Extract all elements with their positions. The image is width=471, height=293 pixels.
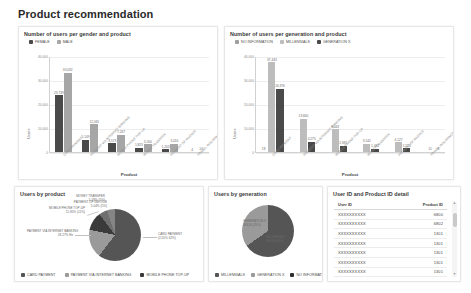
bar-value-label: 3,200: [144, 140, 152, 144]
bar-group[interactable]: 3,5737,267MOBILE PHONE TOP-UP: [103, 56, 130, 152]
gender-chart-ylabel: Users: [26, 129, 31, 139]
legend-item-generation-pie-2[interactable]: NO INFORMATION: [290, 273, 323, 277]
table-row[interactable]: XXXXXXXXXX6800: [334, 210, 447, 220]
bar-group[interactable]: 1837,44326,376CARD PAYMENT: [256, 56, 288, 152]
scrollbar-thumb[interactable]: [453, 213, 457, 227]
cell-product-id: 6802: [397, 219, 447, 229]
cell-product-id: 1301: [397, 267, 447, 277]
legend-label: NO INFORMATION: [296, 273, 323, 277]
detail-table[interactable]: User ID Product ID XXXXXXXXXX6800XXXXXXX…: [334, 200, 447, 277]
bar-value-label: 7,267: [117, 130, 125, 134]
legend-swatch-icon: [215, 273, 219, 277]
bar-value-label: 23,739: [54, 91, 64, 95]
scroll-down-icon[interactable]: ▼: [452, 272, 457, 277]
legend-label: PAYMENT VIA INTERNET BANKING: [71, 273, 132, 277]
card-users-by-product: Users by product CARD PAYMENT (2.05% 62%…: [14, 186, 204, 282]
product-pie-legend: CARD PAYMENTPAYMENT VIA INTERNET BANKING…: [15, 270, 189, 277]
bar-value-label: 3,542: [363, 139, 371, 143]
table-row[interactable]: XXXXXXXXXX1301: [334, 248, 447, 258]
bar-group[interactable]: 1,2033,410PAYMENT OF INVOICE: [157, 56, 184, 152]
table-row[interactable]: XXXXXXXXXX1301: [334, 257, 447, 267]
bar[interactable]: 33,032: [64, 73, 72, 152]
scroll-up-icon[interactable]: ▲: [452, 201, 457, 206]
cell-product-id: 6800: [397, 210, 447, 220]
table-row[interactable]: XXXXXXXXXX6802: [334, 219, 447, 229]
table-row[interactable]: XXXXXXXXXX1301: [334, 229, 447, 239]
bar-group[interactable]: 23,73933,032CARD PAYMENT: [50, 56, 77, 152]
gender-chart-xlabel: Product: [49, 172, 209, 177]
legend-item-generation-pie-1[interactable]: GENERATION X: [251, 273, 285, 277]
bar-group[interactable]: 13,8404,275PAYMENT VIA INTERNET BANKING: [288, 56, 320, 152]
legend-label: MILLENNIALS: [221, 273, 245, 277]
generation-chart-xlabel: Product: [255, 172, 445, 177]
y-axis-tick-label: 30,000: [244, 79, 254, 83]
cell-product-id: 1301: [397, 248, 447, 258]
bar-value-label: 33,032: [63, 68, 73, 72]
bar-value-label: 1,203: [162, 145, 170, 149]
bar-group[interactable]: 9,4432,681MOBILE PHONE TOP-UP: [319, 56, 351, 152]
bar-group[interactable]: 414TRAVEL INSURANCE: [183, 56, 210, 152]
legend-swatch-icon: [251, 273, 255, 277]
bar[interactable]: 37,443: [268, 62, 275, 152]
cell-user-id: XXXXXXXXXX: [334, 238, 397, 248]
bar[interactable]: 5,149: [82, 140, 90, 152]
y-axis-tick-label: 0: [252, 151, 254, 155]
bar-value-label: 26,376: [275, 84, 285, 88]
column-header-product-id[interactable]: Product ID: [397, 200, 447, 210]
bar-value-label: 3,410: [170, 139, 178, 143]
legend-swatch-icon: [290, 273, 294, 277]
pie-leader-line: [143, 237, 157, 238]
legend-item-generation-pie-0[interactable]: MILLENNIALS: [215, 273, 245, 277]
table-row[interactable]: XXXXXXXXXX1301: [334, 238, 447, 248]
bar[interactable]: 13,840: [300, 119, 307, 152]
cell-user-id: XXXXXXXXXX: [334, 267, 397, 277]
detail-table-title: User ID and Product ID detail: [328, 187, 460, 197]
legend-swatch-icon: [65, 273, 69, 277]
generation-pie-title: Users by generation: [209, 187, 322, 197]
bar-value-label: 1,823: [135, 143, 143, 147]
cell-user-id: XXXXXXXXXX: [334, 219, 397, 229]
bar-value-label: 4,127: [394, 138, 402, 142]
table-row[interactable]: XXXXXXXXXX1301: [334, 267, 447, 277]
bar-group[interactable]: 5,14911,565PAYMENT VIA INTERNET BANKING: [77, 56, 104, 152]
table-header-row: User ID Product ID: [334, 200, 447, 210]
y-axis-tick-label: 10,000: [38, 127, 48, 131]
generation-chart-plot-area: Users 010,00020,00030,00040,0001837,4432…: [225, 27, 453, 179]
bar-value-label: 9,443: [331, 125, 339, 129]
bar[interactable]: 9,443: [332, 129, 339, 152]
generation-pie-chart[interactable]: [242, 205, 294, 257]
bar-value-label: 37,443: [267, 58, 277, 62]
bar[interactable]: 1,203: [162, 149, 170, 152]
bar-group[interactable]: 3,5421,462MONEY TRANSFER: [351, 56, 383, 152]
gender-chart-plot-area: Users 010,00020,00030,00040,00023,73933,…: [19, 27, 217, 179]
table-scrollbar[interactable]: ▲ ▼: [452, 201, 457, 277]
cell-user-id: XXXXXXXXXX: [334, 229, 397, 239]
card-user-product-detail: User ID and Product ID detail User ID Pr…: [327, 186, 461, 282]
legend-label: MOBILE PHONE TOP-UP: [146, 273, 189, 277]
legend-label: CARD PAYMENT: [27, 273, 56, 277]
legend-item-product-1[interactable]: PAYMENT VIA INTERNET BANKING: [65, 273, 132, 277]
card-users-by-generation: Users by generation GENERATION X 36316 (…: [208, 186, 323, 282]
bar-value-label: 13,840: [299, 114, 309, 118]
bar-group[interactable]: 1,8233,200MONEY TRANSFER: [130, 56, 157, 152]
bar-value-label: 11,565: [90, 120, 100, 124]
bar[interactable]: 23,739: [55, 95, 63, 152]
legend-label: GENERATION X: [257, 273, 285, 277]
product-pie-chart[interactable]: [89, 209, 141, 261]
bar-group[interactable]: 118TRAVEL INSURANCE: [414, 56, 446, 152]
card-generation-product-chart: Number of users per generation and produ…: [224, 26, 454, 180]
legend-item-product-2[interactable]: MOBILE PHONE TOP-UP: [140, 273, 189, 277]
page-title: Product recommendation: [18, 8, 153, 20]
dashboard-page: Product recommendation Number of users p…: [0, 0, 471, 293]
legend-item-product-0[interactable]: CARD PAYMENT: [21, 273, 56, 277]
y-axis-tick-label: 20,000: [244, 103, 254, 107]
pie-label-payment-invoice: PAYMENT OF INVOICE 5.04% (5%): [59, 201, 107, 209]
bar[interactable]: 1,823: [135, 148, 143, 152]
bar-group[interactable]: 4,1271,513PAYMENT OF INVOICE: [383, 56, 415, 152]
y-axis-tick-label: 0: [46, 151, 48, 155]
column-header-user-id[interactable]: User ID: [334, 200, 397, 210]
card-gender-product-chart: Number of users per gender and product F…: [18, 26, 218, 180]
gridline: [256, 153, 445, 154]
bar[interactable]: 3,573: [108, 143, 116, 152]
cell-user-id: XXXXXXXXXX: [334, 210, 397, 220]
